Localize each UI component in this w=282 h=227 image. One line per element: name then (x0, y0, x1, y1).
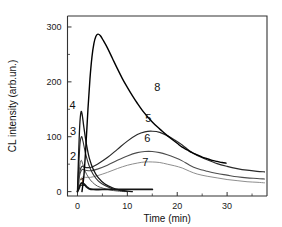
cl-intensity-line-chart: 0100200300010203012345678Time (min)CL in… (0, 0, 282, 227)
curve-1 (77, 183, 152, 192)
y-tick-label-200: 200 (46, 77, 61, 87)
x-tick-label-30: 30 (222, 201, 232, 211)
x-tick-label-10: 10 (122, 201, 132, 211)
chart-figure: 0100200300010203012345678Time (min)CL in… (0, 0, 282, 227)
x-tick-label-0: 0 (75, 201, 80, 211)
curve-label-2: 2 (70, 150, 76, 162)
curve-label-1: 1 (79, 176, 85, 188)
y-tick-label-300: 300 (46, 22, 61, 32)
curve-label-8: 8 (154, 81, 160, 93)
x-tick-label-20: 20 (172, 201, 182, 211)
y-tick-label-100: 100 (46, 132, 61, 142)
curve-label-3: 3 (70, 125, 76, 137)
curve-label-4: 4 (69, 99, 75, 111)
curve-8 (82, 34, 226, 192)
curve-5 (77, 131, 264, 191)
y-axis-title: CL intensity (arb.un.) (7, 60, 18, 152)
y-tick-label-0: 0 (56, 187, 61, 197)
curve-label-5: 5 (145, 112, 151, 124)
x-axis-title: Time (min) (144, 213, 191, 224)
curve-label-7: 7 (142, 156, 148, 168)
curve-label-6: 6 (144, 132, 150, 144)
